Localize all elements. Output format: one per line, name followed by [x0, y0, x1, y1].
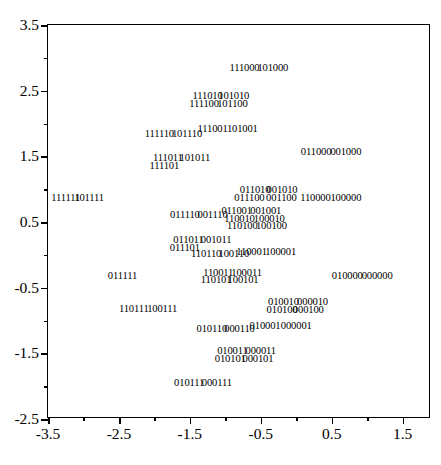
- data-point-label: 111000: [229, 63, 259, 74]
- data-point-label: 011110: [170, 209, 200, 220]
- data-point-label: 010110: [197, 324, 228, 335]
- data-point-label: 100001: [265, 246, 296, 257]
- x-tick-label: -2.5: [107, 425, 132, 443]
- data-point-label: 011111: [108, 271, 137, 282]
- data-point-label: 001011: [201, 235, 232, 246]
- data-point-label: 011100: [234, 192, 264, 203]
- x-tick-major: [190, 417, 192, 424]
- y-tick-minor: [44, 321, 48, 323]
- x-tick-minor: [154, 417, 156, 421]
- data-point-label: 111100: [189, 99, 219, 110]
- data-point-label: 110000: [300, 192, 331, 203]
- data-point-label: 010000: [332, 271, 363, 282]
- x-tick-label: -0.5: [248, 425, 273, 443]
- y-tick-minor: [44, 386, 48, 388]
- y-tick-major: [41, 156, 48, 158]
- y-tick-major: [41, 25, 48, 27]
- y-tick-major: [41, 222, 48, 224]
- data-point-label: 000000: [362, 271, 393, 282]
- data-point-label: 100000: [330, 192, 361, 203]
- data-point-label: 111110: [145, 129, 174, 140]
- data-point-label: 110001: [236, 246, 267, 257]
- x-tick-label: -1.5: [178, 425, 203, 443]
- data-point-label: 001000: [330, 146, 361, 157]
- y-tick-minor: [44, 58, 48, 60]
- data-point-label: 110100: [227, 221, 258, 232]
- x-tick-minor: [296, 417, 298, 421]
- x-tick-minor: [83, 417, 85, 421]
- data-point-label: 101100: [217, 99, 248, 110]
- data-point-label: 011000: [301, 146, 332, 157]
- scatter-plot: 3.52.51.50.5-0.5-1.5-2.5 -3.5-2.5-1.5-0.…: [0, 0, 441, 465]
- data-point-label: 110111: [119, 304, 149, 315]
- x-tick-major: [48, 417, 50, 424]
- data-point-label: 000001: [281, 320, 312, 331]
- y-tick-major: [41, 353, 48, 355]
- x-tick-minor: [225, 417, 227, 421]
- y-tick-label: 0.5: [20, 213, 39, 231]
- y-tick-major: [41, 91, 48, 93]
- data-point-label: 000100: [293, 305, 324, 316]
- y-tick-minor: [44, 189, 48, 191]
- data-point-label: 101011: [180, 152, 211, 163]
- y-tick-label: 1.5: [20, 147, 39, 165]
- x-tick-label: 0.5: [322, 425, 341, 443]
- y-tick-major: [41, 288, 48, 290]
- data-point-label: 000101: [242, 354, 273, 365]
- x-tick-major: [332, 417, 334, 424]
- data-point-label: 101001: [227, 124, 258, 135]
- x-tick-major: [119, 417, 121, 424]
- data-point-label: 111101: [149, 160, 179, 171]
- x-tick-label: 1.5: [393, 425, 412, 443]
- y-tick-label: -0.5: [14, 279, 39, 297]
- data-point-label: 100111: [147, 304, 177, 315]
- data-point-label: 010101: [215, 354, 246, 365]
- x-tick-major: [261, 417, 263, 424]
- data-point-label: 010001: [250, 320, 281, 331]
- data-point-label: 000111: [202, 378, 232, 389]
- data-point-label: 101000: [257, 63, 288, 74]
- data-point-label: 010111: [174, 378, 204, 389]
- y-tick-label: 2.5: [20, 82, 39, 100]
- y-tick-minor: [44, 255, 48, 257]
- data-point-label: 001100: [266, 192, 297, 203]
- data-point-label: 100100: [256, 221, 287, 232]
- plot-frame: 3.52.51.50.5-0.5-1.5-2.5 -3.5-2.5-1.5-0.…: [47, 24, 430, 418]
- data-point-label: 101111: [74, 192, 104, 203]
- data-point-label: 100101: [228, 275, 259, 286]
- y-tick-label: -1.5: [14, 344, 39, 362]
- x-tick-label: -3.5: [36, 425, 61, 443]
- y-tick-minor: [44, 124, 48, 126]
- y-tick-label: 3.5: [20, 16, 39, 34]
- x-tick-minor: [367, 417, 369, 421]
- data-point-label: 111001: [197, 124, 227, 135]
- data-point-label: 110110: [191, 249, 221, 260]
- x-tick-major: [403, 417, 405, 424]
- y-tick-major: [41, 419, 48, 421]
